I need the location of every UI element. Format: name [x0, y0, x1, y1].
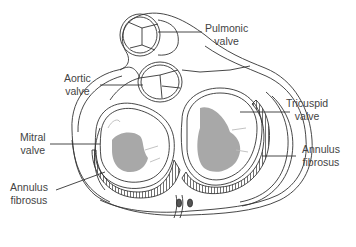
coronary-vessels [174, 195, 193, 218]
tricuspid-leaflet [197, 107, 240, 172]
pulmonic-valve-label: Pulmonic valve [205, 22, 248, 48]
tricuspid-valve-label: Tricuspid valve [286, 97, 328, 123]
aortic-valve-shape [120, 62, 250, 102]
annulus-fibrosus-left-label: Annulus fibrosus [10, 181, 48, 207]
pulmonic-valve-shape [120, 14, 178, 56]
heart-valves-diagram: Pulmonic valve Aortic valve Mitral valve… [0, 0, 356, 247]
heart-illustration [0, 0, 356, 247]
aortic-valve-label: Aortic valve [64, 72, 91, 98]
mitral-leaflet [112, 133, 148, 172]
mitral-valve-label: Mitral valve [20, 131, 46, 157]
tricuspid-valve-shape [181, 88, 269, 194]
mitral-valve-shape [92, 103, 180, 198]
annulus-fibrosus-right-label: Annulus fibrosus [302, 143, 340, 169]
